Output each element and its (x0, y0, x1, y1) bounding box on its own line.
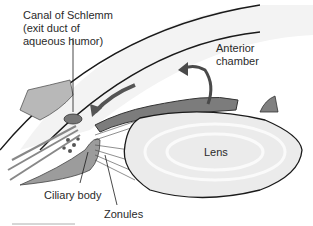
iris-right-stub (260, 96, 278, 112)
zonules-pointer (105, 155, 117, 205)
label-lens: Lens (204, 146, 228, 159)
label-zonules: Zonules (104, 208, 143, 221)
label-ciliary-body: Ciliary body (44, 189, 101, 202)
canal-of-schlemm (64, 114, 82, 124)
eye-diagram: Canal of Schlemm (exit duct of aqueous h… (0, 0, 313, 226)
label-canal-of-schlemm: Canal of Schlemm (exit duct of aqueous h… (23, 9, 113, 48)
label-anterior-chamber: Anterior chamber (216, 42, 276, 68)
